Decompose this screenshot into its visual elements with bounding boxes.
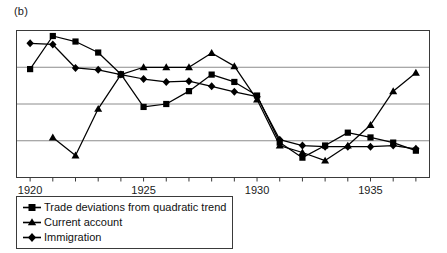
data-point-marker xyxy=(140,104,146,110)
data-point-marker xyxy=(185,77,192,85)
data-point-marker xyxy=(230,62,238,69)
data-point-marker xyxy=(26,39,33,47)
x-tick-label: 1930 xyxy=(245,184,269,196)
data-point-marker xyxy=(367,121,375,128)
data-point-marker xyxy=(231,88,238,96)
chart-legend: Trade deviations from quadratic trend Cu… xyxy=(16,196,233,249)
legend-item-immigration: Immigration xyxy=(21,230,226,245)
legend-label-current-account: Current account xyxy=(43,216,122,229)
series-square xyxy=(27,33,419,161)
triangle-marker-icon xyxy=(21,216,43,229)
data-point-marker xyxy=(208,82,215,90)
legend-label-immigration: Immigration xyxy=(43,231,101,244)
data-point-marker xyxy=(49,134,57,141)
data-point-marker xyxy=(163,78,170,86)
data-point-marker xyxy=(50,33,56,39)
x-tick-label: 1925 xyxy=(131,184,155,196)
data-point-marker xyxy=(345,130,351,136)
data-point-marker xyxy=(163,101,169,107)
data-point-marker xyxy=(140,75,147,83)
data-point-marker xyxy=(27,66,33,72)
data-series xyxy=(26,33,419,164)
data-point-marker xyxy=(299,142,306,150)
data-point-marker xyxy=(186,88,192,94)
data-point-marker xyxy=(367,134,373,140)
x-tick-label: 1920 xyxy=(18,184,42,196)
x-axis-tick-labels: 1920192519301935 xyxy=(18,184,383,196)
figure-panel-b: (b) 1920192519301935 Trade deviations fr… xyxy=(0,0,447,253)
legend-label-trade: Trade deviations from quadratic trend xyxy=(43,201,226,214)
data-point-marker xyxy=(95,49,101,55)
data-point-marker xyxy=(94,105,102,112)
data-point-marker xyxy=(208,49,216,56)
data-point-marker xyxy=(209,72,215,78)
series-line xyxy=(30,36,416,158)
square-marker-icon xyxy=(21,201,43,214)
diamond-marker-icon xyxy=(21,231,43,244)
legend-item-current-account: Current account xyxy=(21,215,226,230)
data-point-marker xyxy=(72,38,78,44)
data-point-marker xyxy=(367,143,374,151)
data-point-marker xyxy=(412,69,420,76)
data-point-marker xyxy=(231,79,237,85)
x-axis-ticks xyxy=(30,178,416,182)
x-tick-label: 1935 xyxy=(358,184,382,196)
legend-item-trade: Trade deviations from quadratic trend xyxy=(21,200,226,215)
